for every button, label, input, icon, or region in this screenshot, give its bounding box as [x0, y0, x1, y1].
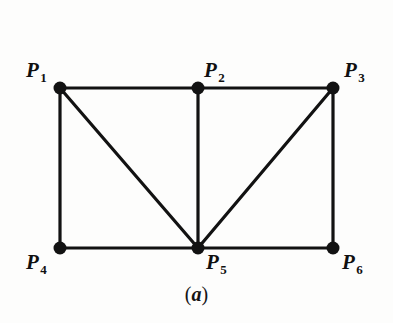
label-subscript: 4: [40, 262, 47, 277]
vertex-label-p5: P5: [206, 252, 226, 273]
vertex-p1: [54, 82, 67, 95]
label-base: P: [342, 250, 355, 274]
label-subscript: 5: [220, 262, 227, 277]
vertex-p5: [192, 242, 205, 255]
label-base: P: [344, 58, 357, 82]
vertex-label-p3: P3: [344, 60, 364, 81]
vertex-p4: [54, 242, 67, 255]
caption-open-paren: (: [185, 283, 192, 305]
graph-diagram: [0, 0, 393, 323]
label-base: P: [26, 250, 39, 274]
vertex-label-p6: P6: [342, 252, 362, 273]
caption-letter: a: [192, 283, 202, 305]
vertex-p3: [327, 82, 340, 95]
label-subscript: 6: [356, 262, 363, 277]
vertex-label-p2: P2: [204, 60, 224, 81]
label-base: P: [26, 58, 39, 82]
vertex-p2: [192, 82, 205, 95]
vertex-p6: [327, 242, 340, 255]
figure-container: P1P2P3P4P5P6 (a): [0, 0, 393, 323]
edges-group: [60, 88, 333, 248]
caption-close-paren: ): [202, 283, 209, 305]
label-subscript: 3: [358, 70, 365, 85]
label-base: P: [204, 58, 217, 82]
figure-caption: (a): [0, 284, 393, 304]
edge-p1-p5: [60, 88, 198, 248]
edge-p5-p3: [198, 88, 333, 248]
label-subscript: 2: [218, 70, 225, 85]
vertex-label-p1: P1: [26, 60, 46, 81]
label-base: P: [206, 250, 219, 274]
label-subscript: 1: [40, 70, 47, 85]
vertex-label-p4: P4: [26, 252, 46, 273]
